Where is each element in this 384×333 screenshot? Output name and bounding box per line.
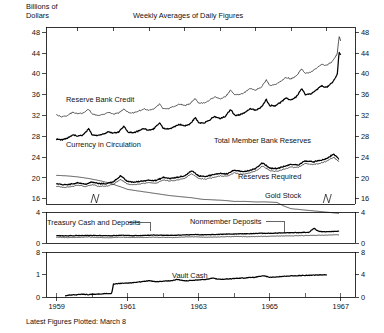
footnote: Latest Figures Plotted: March 8 bbox=[26, 318, 126, 326]
svg-text:1967: 1967 bbox=[333, 302, 349, 311]
svg-text:20: 20 bbox=[361, 174, 369, 183]
svg-text:0: 0 bbox=[361, 293, 365, 302]
series-label-vault-cash: Vault Cash bbox=[172, 272, 208, 281]
svg-text:1963: 1963 bbox=[190, 302, 206, 311]
series-label-reserve-bank-credit: Reserve Bank Credit bbox=[66, 96, 134, 105]
series-label-treasury-cash-and-deposits: Treasury Cash and Deposits bbox=[47, 219, 140, 228]
svg-text:16: 16 bbox=[32, 194, 40, 203]
svg-text:28: 28 bbox=[32, 132, 40, 141]
svg-text:0: 0 bbox=[36, 293, 40, 302]
svg-text:1959: 1959 bbox=[48, 302, 64, 311]
svg-text:32: 32 bbox=[32, 111, 40, 120]
series-label-nonmember-deposits: Nonmember Deposits bbox=[190, 218, 261, 227]
svg-text:40: 40 bbox=[32, 69, 40, 78]
svg-text:44: 44 bbox=[361, 49, 369, 58]
svg-text:1: 1 bbox=[36, 270, 40, 279]
svg-text:4: 4 bbox=[36, 208, 40, 217]
series-label-currency-in-circulation: Currency in Circulation bbox=[66, 141, 141, 150]
svg-text:8: 8 bbox=[361, 248, 365, 257]
svg-text:0: 0 bbox=[36, 239, 40, 248]
svg-text:20: 20 bbox=[32, 174, 40, 183]
svg-text:24: 24 bbox=[32, 153, 40, 162]
svg-text:40: 40 bbox=[361, 69, 369, 78]
svg-text:36: 36 bbox=[361, 90, 369, 99]
svg-text:16: 16 bbox=[361, 194, 369, 203]
series-label-reserves-required: Reserves Required bbox=[238, 173, 301, 182]
svg-text:8: 8 bbox=[36, 248, 40, 257]
svg-text:44: 44 bbox=[32, 49, 40, 58]
svg-text:48: 48 bbox=[361, 28, 369, 37]
svg-text:48: 48 bbox=[32, 28, 40, 37]
chart-figure: Billions of Dollars Weekly Averages of D… bbox=[0, 0, 384, 333]
svg-text:4: 4 bbox=[361, 208, 365, 217]
series-label-total-member-bank-reserves: Total Member Bank Reserves bbox=[214, 137, 311, 146]
svg-text:0: 0 bbox=[361, 239, 365, 248]
svg-text:36: 36 bbox=[32, 90, 40, 99]
svg-text:1965: 1965 bbox=[262, 302, 278, 311]
svg-text:32: 32 bbox=[361, 111, 369, 120]
svg-text:24: 24 bbox=[361, 153, 369, 162]
chart-canvas: 1616202024242828323236364040444448484400… bbox=[0, 0, 384, 333]
svg-text:4: 4 bbox=[361, 270, 365, 279]
series-label-gold-stock: Gold Stock bbox=[265, 192, 301, 201]
svg-text:1961: 1961 bbox=[119, 302, 135, 311]
svg-text:28: 28 bbox=[361, 132, 369, 141]
